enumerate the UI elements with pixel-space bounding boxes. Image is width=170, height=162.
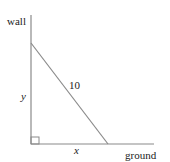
ladder-line: [31, 43, 108, 144]
ground-label: ground: [125, 149, 157, 161]
wall-label: wall: [7, 15, 26, 27]
right-angle-marker: [31, 137, 39, 144]
ladder-diagram: wall y 10 x ground: [0, 0, 170, 162]
hypotenuse-label: 10: [69, 79, 81, 91]
base-label: x: [73, 144, 79, 156]
height-label: y: [20, 90, 26, 102]
